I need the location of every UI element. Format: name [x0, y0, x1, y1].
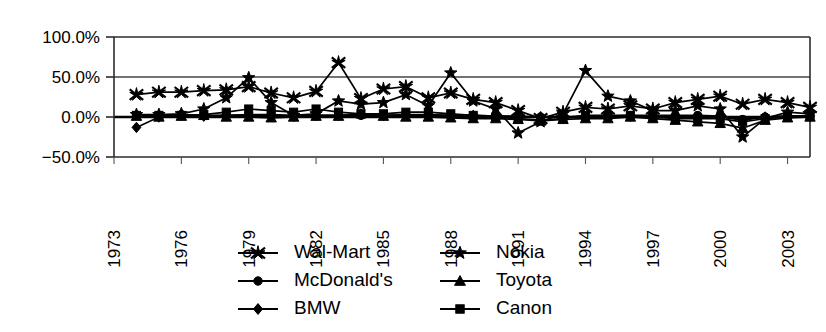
data-point-marker	[222, 108, 230, 116]
legend-label: BMW	[294, 297, 341, 318]
data-point-marker	[514, 115, 522, 123]
data-point-marker	[447, 110, 455, 118]
data-point-marker	[312, 105, 320, 113]
data-point-marker	[200, 111, 208, 119]
data-point-marker	[559, 115, 567, 123]
x-axis-tick-label: 1976	[172, 230, 191, 268]
y-axis-tick-label: 50.0%	[52, 68, 100, 87]
legend-label: Wal-Mart	[294, 241, 371, 262]
data-point-marker	[155, 111, 163, 119]
x-axis-tick-label: 2000	[711, 230, 730, 268]
percentage-change-line-chart: 100.0%50.0%0.0%−50.0% 197319761979198219…	[0, 0, 826, 332]
x-axis-tick-label: 2003	[779, 230, 798, 268]
data-point-marker	[537, 116, 545, 124]
legend-label: Nokia	[496, 241, 545, 262]
data-point-marker	[739, 118, 747, 126]
data-point-marker	[649, 113, 657, 121]
data-point-marker	[806, 111, 814, 119]
y-axis-tick-label: −50.0%	[42, 148, 100, 167]
data-point-marker	[334, 108, 342, 116]
data-point-marker	[245, 105, 253, 113]
data-point-marker	[469, 111, 477, 119]
data-point-marker	[379, 110, 387, 118]
data-point-marker	[492, 113, 500, 121]
x-axis-tick-label: 1988	[442, 230, 461, 268]
data-point-marker	[132, 111, 140, 119]
chart-container: 100.0%50.0%0.0%−50.0% 197319761979198219…	[0, 0, 826, 332]
y-axis-tick-label: 0.0%	[61, 108, 100, 127]
data-point-marker	[254, 277, 262, 285]
data-point-marker	[581, 111, 589, 119]
x-axis-tick-label: 1985	[374, 230, 393, 268]
data-point-marker	[671, 115, 679, 123]
data-point-marker	[716, 115, 724, 123]
x-axis-tick-label: 1994	[576, 230, 595, 268]
data-point-marker	[357, 110, 365, 118]
x-axis-tick-label: 1997	[644, 230, 663, 268]
data-point-marker	[783, 113, 791, 121]
chart-background	[0, 0, 826, 332]
data-point-marker	[177, 111, 185, 119]
x-axis-tick-label: 1973	[105, 230, 124, 268]
data-point-marker	[402, 108, 410, 116]
data-point-marker	[761, 115, 769, 123]
data-point-marker	[424, 108, 432, 116]
data-point-marker	[626, 111, 634, 119]
x-axis-tick-label: 1979	[240, 230, 259, 268]
legend-label: Canon	[496, 297, 552, 318]
data-point-marker	[456, 305, 464, 313]
legend-label: Toyota	[496, 269, 552, 290]
legend-label: McDonald's	[294, 269, 393, 290]
data-point-marker	[604, 111, 612, 119]
y-axis-tick-label: 100.0%	[42, 28, 100, 47]
data-point-marker	[290, 108, 298, 116]
data-point-marker	[694, 115, 702, 123]
data-point-marker	[267, 107, 275, 115]
